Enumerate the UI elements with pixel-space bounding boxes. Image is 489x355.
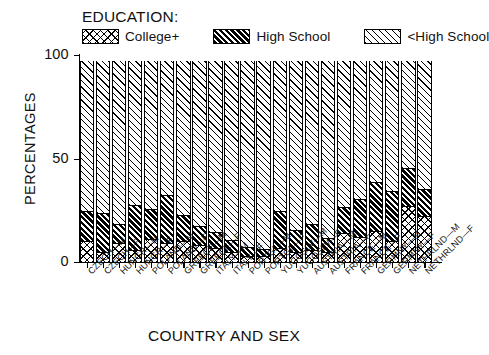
bar-segment-high-school: [401, 169, 415, 206]
bar: [240, 55, 254, 262]
bar-segment-college: [80, 241, 94, 262]
bar: [385, 55, 399, 262]
bar-segment-high-school: [192, 61, 206, 227]
bar: [192, 55, 206, 262]
bar: [112, 55, 126, 262]
bar-segment-high-school: [337, 61, 351, 208]
bar: [144, 55, 158, 262]
bar-segment-high-school: [80, 61, 94, 212]
bar-segment-high-school: [321, 61, 335, 239]
bar: [128, 55, 142, 262]
bar-segment-high-school: [144, 61, 158, 210]
bar: [96, 55, 110, 262]
bar-segment-high-school: [160, 61, 174, 196]
bar-segment-high-school: [289, 61, 303, 231]
bar-segment-high-school: [256, 61, 270, 249]
bar-segment-high-school: [176, 61, 190, 216]
bar: [80, 55, 94, 262]
bar-segment-high-school: [369, 183, 383, 231]
bar-segment-high-school: [353, 61, 367, 200]
bar-segment-high-school: [224, 61, 238, 241]
bar-segment-high-school: [208, 61, 222, 233]
bar-segment-high-school: [128, 61, 142, 206]
bar-segment-high-school: [401, 61, 415, 169]
bar-segment-high-school: [112, 61, 126, 225]
x-axis-title: COUNTRY AND SEX: [148, 327, 300, 345]
bar: [256, 55, 270, 262]
bar-segment-high-school: [305, 61, 319, 225]
bar-segment-high-school: [417, 190, 431, 217]
bar-segment-high-school: [385, 61, 399, 191]
bar-segment-high-school: [240, 61, 254, 247]
bar-segment-high-school: [273, 61, 287, 212]
bar-segment-high-school: [417, 61, 431, 189]
bar-segment-high-school: [96, 61, 110, 214]
bar-segment-high-school: [369, 61, 383, 183]
bar: [160, 55, 174, 262]
bar-segment-high-school: [80, 212, 94, 241]
